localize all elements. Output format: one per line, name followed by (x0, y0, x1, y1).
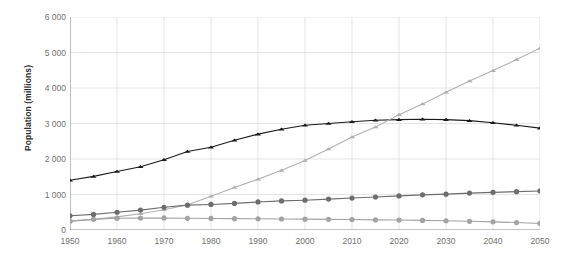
x-axis-tick-label: 2050 (520, 236, 560, 246)
data-point-marker (373, 194, 378, 199)
x-axis-tick-label: 2020 (379, 236, 419, 246)
data-point-marker (232, 216, 237, 221)
x-axis-tick-label: 2030 (426, 236, 466, 246)
x-axis-tick-label: 1960 (97, 236, 137, 246)
x-axis-tick-label: 2040 (473, 236, 513, 246)
x-axis-tick-label: 2010 (332, 236, 372, 246)
data-point-marker (326, 197, 331, 202)
data-point-marker (514, 189, 519, 194)
data-point-marker (420, 218, 425, 223)
data-point-marker (443, 218, 448, 223)
data-point-marker (161, 205, 166, 210)
y-axis-tick-label: 5 000 (22, 48, 66, 58)
x-axis-tick-label: 1970 (144, 236, 184, 246)
data-point-marker (443, 192, 448, 197)
data-point-marker (537, 188, 540, 193)
y-axis-tick-label: 0 (22, 225, 66, 235)
data-point-marker (279, 198, 284, 203)
data-point-marker (349, 217, 354, 222)
data-point-marker (185, 216, 190, 221)
data-point-marker (467, 190, 472, 195)
data-point-marker (185, 203, 190, 208)
x-axis-tick-label: 1950 (50, 236, 90, 246)
x-axis-tick-label: 2000 (285, 236, 325, 246)
data-point-marker (326, 217, 331, 222)
data-point-marker (396, 193, 401, 198)
data-point-marker (91, 217, 96, 222)
data-point-marker (373, 217, 378, 222)
data-point-marker (279, 216, 284, 221)
data-point-marker (349, 195, 354, 200)
y-axis-tick-label: 4 000 (22, 83, 66, 93)
data-point-marker (255, 216, 260, 221)
data-point-marker (138, 216, 143, 221)
x-axis-tick-label: 1990 (238, 236, 278, 246)
data-point-marker (114, 216, 119, 221)
y-axis-tick-label: 1 000 (22, 190, 66, 200)
plot-area (70, 17, 540, 230)
chart-figure: Population (millions) 01 0002 0003 0004 … (0, 0, 565, 274)
x-axis-tick-labels: 1950196019701980199020002010202020302040… (0, 236, 565, 250)
y-axis-tick-label: 3 000 (22, 119, 66, 129)
data-point-marker (138, 208, 143, 213)
y-axis-tick-label: 6 000 (22, 12, 66, 22)
data-point-marker (396, 217, 401, 222)
data-point-marker (302, 198, 307, 203)
data-point-marker (232, 201, 237, 206)
data-point-marker (467, 219, 472, 224)
data-point-marker (302, 217, 307, 222)
data-point-marker (208, 216, 213, 221)
data-point-marker (420, 192, 425, 197)
data-point-marker (490, 219, 495, 224)
data-point-marker (91, 212, 96, 217)
data-point-marker (114, 210, 119, 215)
data-point-marker (514, 220, 519, 225)
data-point-marker (255, 199, 260, 204)
x-axis-tick-label: 1980 (191, 236, 231, 246)
data-point-marker (70, 219, 73, 224)
chart-canvas (70, 17, 540, 230)
data-point-marker (537, 221, 540, 226)
y-axis-tick-label: 2 000 (22, 154, 66, 164)
data-point-marker (70, 213, 73, 218)
data-point-marker (161, 215, 166, 220)
y-axis-tick-labels: 01 0002 0003 0004 0005 0006 000 (16, 0, 66, 274)
data-point-marker (490, 190, 495, 195)
data-point-marker (208, 202, 213, 207)
